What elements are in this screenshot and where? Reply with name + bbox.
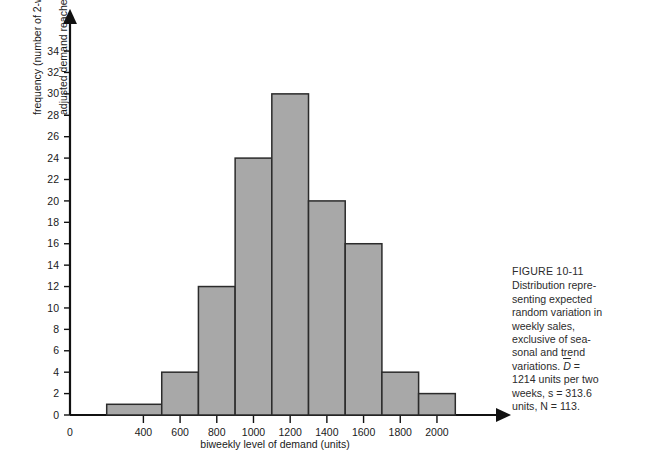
histogram-bar [345,244,382,415]
x-tick-label: 800 [208,426,226,438]
y-tick-label: 30 [47,87,59,99]
histogram-bar [419,394,456,415]
y-tick-label: 10 [47,302,59,314]
histogram-chart: 0246810121416182022242628303234 04006008… [0,0,500,465]
y-tick-label: 18 [47,216,59,228]
y-tick-label: 12 [47,280,59,292]
histogram-bar [162,372,199,415]
figure-caption-line: units, N = 113. [512,400,646,413]
figure-caption-title: FIGURE 10-11 [512,265,646,278]
plot-svg: 0246810121416182022242628303234 04006008… [0,0,500,465]
histogram-bar [382,372,419,415]
x-axis-ticks: 0400600800100012001400160018002000 [67,415,449,438]
histogram-bar [309,201,346,415]
histogram-bar [235,158,272,415]
histogram-bar [198,287,235,415]
x-axis-label: biweekly level of demand (units) [110,438,440,450]
histogram-bar [272,94,309,415]
x-tick-label: 1800 [389,426,413,438]
x-tick-label: 1000 [242,426,266,438]
y-tick-label: 0 [53,409,59,421]
x-tick-label: 2000 [425,426,449,438]
y-tick-label: 14 [47,259,59,271]
y-tick-label: 32 [47,66,59,78]
x-tick-label: 400 [135,426,153,438]
figure-caption-line: senting expected [512,293,646,306]
figure-caption-line: weekly sales, [512,320,646,333]
figure-caption: FIGURE 10-11 Distribution repre-senting … [512,265,646,413]
figure-caption-line: random variation in [512,306,646,319]
histogram-bar [107,404,162,415]
figure-caption-body: Distribution repre-senting expectedrando… [512,279,646,413]
y-tick-label: 16 [47,237,59,249]
y-tick-label: 20 [47,195,59,207]
y-tick-label: 8 [53,323,59,335]
figure-caption-line: exclusive of sea- [512,333,646,346]
y-tick-label: 4 [53,366,59,378]
y-tick-label: 2 [53,387,59,399]
figure-caption-line: Distribution repre- [512,279,646,292]
y-tick-label: 24 [47,152,59,164]
figure-caption-line: weeks, s = 313.6 [512,387,646,400]
figure-caption-line: variations. D = [512,360,646,373]
y-tick-label: 34 [47,45,59,57]
x-tick-label: 1400 [315,426,339,438]
x-tick-label: 1200 [278,426,302,438]
y-tick-label: 6 [53,344,59,356]
x-tick-label: 0 [67,426,73,438]
y-tick-label: 28 [47,109,59,121]
histogram-bars [107,94,456,415]
x-tick-label: 600 [171,426,189,438]
y-tick-label: 26 [47,130,59,142]
x-tick-label: 1600 [352,426,376,438]
y-tick-label: 22 [47,173,59,185]
figure-caption-line: 1214 units per two [512,373,646,386]
mean-symbol: D [563,360,571,372]
figure-caption-line: sonal and trend [512,346,646,359]
y-axis-ticks: 0246810121416182022242628303234 [47,45,70,421]
figure-container: 0246810121416182022242628303234 04006008… [0,0,652,465]
